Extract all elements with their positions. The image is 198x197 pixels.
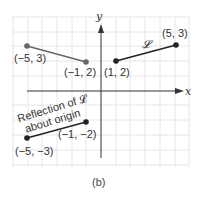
point-marker bbox=[24, 43, 30, 49]
point-marker bbox=[83, 59, 89, 65]
curve-label: 𝓛 bbox=[142, 38, 153, 51]
x-axis-label: x bbox=[185, 85, 192, 98]
point-label: (5, 3) bbox=[162, 27, 188, 39]
figure-caption: (b) bbox=[92, 176, 105, 188]
point-label: (1, 2) bbox=[104, 66, 130, 78]
point-label: (−5, −3) bbox=[15, 145, 54, 157]
y-axis-label: y bbox=[95, 10, 103, 23]
x-axis-arrow-icon bbox=[175, 88, 184, 94]
point-label: (−5, 3) bbox=[14, 52, 46, 64]
point-label: (−1, 2) bbox=[64, 66, 96, 78]
point-marker bbox=[173, 42, 179, 48]
y-axis-arrow-icon bbox=[98, 24, 104, 33]
point-marker bbox=[24, 135, 30, 141]
point-marker bbox=[113, 58, 119, 64]
point-marker bbox=[83, 119, 89, 125]
point-label: (−1, −2) bbox=[58, 128, 97, 140]
coordinate-diagram: x y (−5, 3) (−1, 2) (1, 2) (5, 3) (−5, −… bbox=[0, 0, 198, 197]
